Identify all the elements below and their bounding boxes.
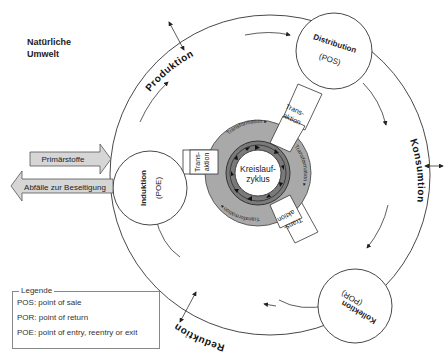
legend-item-por: POR: point of return [17, 313, 88, 322]
induktion-node [113, 151, 187, 225]
distribution-node [296, 13, 372, 89]
legend-item-pos: POS: point of sale [17, 298, 81, 307]
environment-label: Natürliche Umwelt [27, 36, 87, 60]
svg-text:Konsumtion: Konsumtion [408, 137, 427, 203]
legend-title: Legende [19, 286, 54, 295]
center-line1: Kreislauf- [240, 164, 276, 174]
circular-economy-diagram: Transformation ▸ Transformation ▸ Transf… [0, 0, 445, 353]
svg-text:Produktion: Produktion [143, 48, 195, 94]
phase-konsumtion: Konsumtion [408, 137, 427, 203]
abfaelle-label: Abfälle zur Beseitigung [24, 183, 106, 192]
svg-text:Trans-: Trans- [194, 151, 201, 172]
induktion-code: (POE) [154, 177, 163, 200]
legend-item-poe: POE: point of entry, reentry or exit [17, 328, 137, 337]
svg-text:aktion: aktion [203, 153, 210, 172]
legend-box: Legende POS: point of sale POR: point of… [12, 291, 160, 349]
center-line2: zyklus [246, 174, 270, 184]
induktion-name: Induktion [139, 170, 148, 206]
primaerstoffe-label: Primärstoffe [42, 155, 86, 164]
phase-produktion: Produktion [143, 48, 195, 94]
